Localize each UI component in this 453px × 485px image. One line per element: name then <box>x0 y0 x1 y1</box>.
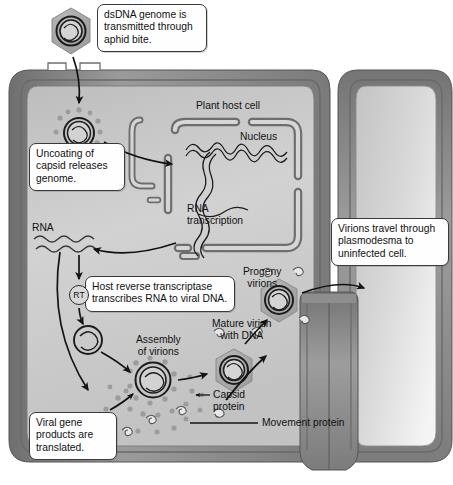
label-mature-virion: Mature virion with DNA <box>212 318 272 342</box>
diagram-canvas: dsDNA genome is transmitted through aphi… <box>0 0 453 485</box>
label-progeny-virions: Progeny virions <box>243 266 281 290</box>
callout-aphid-text: dsDNA genome is transmitted through aphi… <box>104 9 193 45</box>
label-nucleus: Nucleus <box>240 131 277 143</box>
callout-uncoating: Uncoating of capsid releases genome. <box>29 143 125 191</box>
label-assembly-of-virions: Assembly of virions <box>136 334 181 358</box>
virion-particle-input <box>52 8 90 54</box>
callout-translation: Viral gene products are translated. <box>29 412 117 460</box>
callout-uncoating-text: Uncoating of capsid releases genome. <box>36 148 108 184</box>
callout-plasmodesma-text: Virions travel through plasmodesma to un… <box>338 223 435 259</box>
callout-reverse-transcriptase: Host reverse transcriptase transcribes R… <box>85 276 235 312</box>
label-rna-transcription: RNA transcription <box>187 203 243 227</box>
callout-plasmodesma: Virions travel through plasmodesma to un… <box>331 218 449 266</box>
callout-translation-text: Viral gene products are translated. <box>36 417 93 453</box>
rt-enzyme-badge: RT <box>69 285 89 305</box>
callout-aphid-transmission: dsDNA genome is transmitted through aphi… <box>97 4 207 52</box>
label-rna: RNA <box>32 222 54 234</box>
label-capsid-protein: Capsid protein <box>213 389 245 413</box>
label-movement-protein: Movement protein <box>262 417 344 429</box>
callout-rt-text: Host reverse transcriptase transcribes R… <box>92 281 227 304</box>
rt-enzyme-label: RT <box>73 290 84 300</box>
label-plant-host-cell: Plant host cell <box>196 100 260 112</box>
